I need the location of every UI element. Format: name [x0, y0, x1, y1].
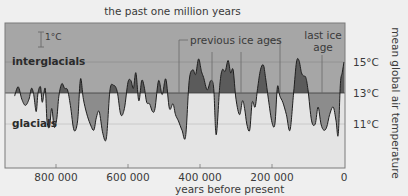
chart-plot — [0, 0, 408, 196]
interglacials-label: interglacials — [12, 55, 85, 67]
scale-bar-label: 1°C — [45, 32, 62, 42]
xtick-200000: 200 000 — [250, 171, 293, 183]
last-ice-age-line1: last ice — [304, 29, 342, 41]
last-ice-age-label: last ice age — [304, 29, 342, 53]
ytick-13c: 13°C — [353, 87, 379, 99]
xtick-600000: 600 000 — [106, 171, 149, 183]
xtick-0: 0 — [341, 171, 348, 183]
glacials-label: glacials — [12, 117, 57, 129]
ytick-11c: 11°C — [353, 118, 379, 130]
xtick-400000: 400 000 — [178, 171, 221, 183]
ytick-15c: 15°C — [353, 56, 379, 68]
y-axis-title: mean global air temperature — [390, 27, 402, 178]
xtick-800000: 800 000 — [34, 171, 77, 183]
previous-ice-ages-label: previous ice ages — [190, 34, 282, 46]
last-ice-age-line2: age — [304, 41, 342, 53]
x-axis-title: years before present — [175, 183, 284, 195]
